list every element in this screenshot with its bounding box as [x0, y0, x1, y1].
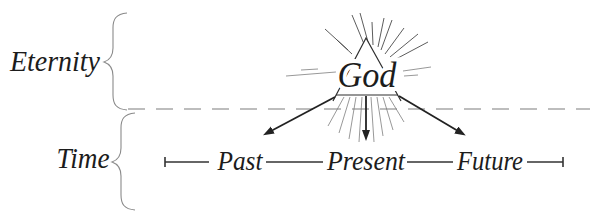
eternity-time-diagram: Eternity Time God Past Present Future	[0, 0, 593, 218]
past-label: Past	[217, 146, 264, 176]
eternity-brace	[104, 13, 127, 110]
present-label: Present	[326, 146, 406, 176]
god-label: God	[338, 55, 398, 95]
time-brace	[112, 113, 135, 210]
arrow-god-to-past	[271, 97, 335, 131]
arrow-god-to-future	[399, 96, 458, 131]
future-label: Future	[456, 146, 523, 176]
diagram-canvas: Eternity Time God Past Present Future	[0, 0, 593, 218]
eternity-label: Eternity	[9, 44, 101, 77]
time-label: Time	[57, 142, 110, 174]
